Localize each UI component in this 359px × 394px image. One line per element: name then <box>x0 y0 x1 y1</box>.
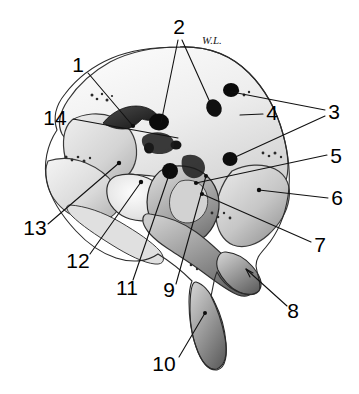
leader-dot-3a <box>230 90 234 94</box>
leader-dot-5 <box>194 181 198 185</box>
label-11[interactable]: 11 <box>116 276 138 299</box>
label-3[interactable]: 3 <box>328 100 340 123</box>
label-7[interactable]: 7 <box>314 233 326 256</box>
label-13[interactable]: 13 <box>23 216 46 239</box>
leader-dot-6 <box>257 188 261 192</box>
label-1[interactable]: 1 <box>72 53 84 76</box>
label-2[interactable]: 2 <box>173 15 185 38</box>
bone-drawing: W.L. <box>45 34 289 370</box>
label-9[interactable]: 9 <box>163 278 175 301</box>
label-5[interactable]: 5 <box>330 144 342 167</box>
label-6[interactable]: 6 <box>331 186 343 209</box>
label-4[interactable]: 4 <box>266 101 278 124</box>
anatomical-illustration: W.L. <box>0 0 359 394</box>
leader-dot-1 <box>131 124 135 128</box>
label-12[interactable]: 12 <box>66 249 89 272</box>
leader-dot-9 <box>204 174 208 178</box>
leader-dot-12 <box>139 180 143 184</box>
label-14[interactable]: 14 <box>43 106 67 129</box>
greater-wing-right <box>216 165 290 246</box>
anatomical-figure-container: W.L. <box>0 0 359 394</box>
foramen-ovale <box>223 83 239 97</box>
foramen-central <box>162 163 178 179</box>
label-8[interactable]: 8 <box>287 299 299 322</box>
foramen-rotundum <box>149 114 169 131</box>
artist-signature-mark: W.L. <box>202 34 222 46</box>
label-10[interactable]: 10 <box>152 352 175 375</box>
leader-dot-13 <box>117 161 121 165</box>
pterygoid-inner-panel <box>170 180 208 223</box>
leader-dot-3b <box>229 157 233 161</box>
pterygoid-lamina-long <box>190 282 226 369</box>
leader-dot-10 <box>203 311 207 315</box>
pterygoid-spine-right <box>217 252 261 294</box>
